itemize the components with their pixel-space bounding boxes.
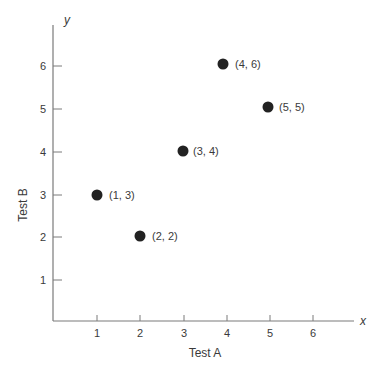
y-axis-variable: y <box>63 13 71 27</box>
x-tick-label: 6 <box>310 327 316 339</box>
y-ticks: 1 2 3 4 5 6 <box>40 60 62 286</box>
y-tick-label: 1 <box>40 274 46 286</box>
y-tick-label: 5 <box>40 103 46 115</box>
y-tick-label: 3 <box>40 189 46 201</box>
data-point <box>218 59 229 70</box>
x-tick-label: 3 <box>181 327 187 339</box>
x-axis-title: Test A <box>189 346 222 360</box>
data-point <box>263 102 274 113</box>
data-point-label: (1, 3) <box>109 189 135 201</box>
data-points: (1, 3) (2, 2) (3, 4) (4, 6) (5, 5) <box>92 58 305 242</box>
x-tick-label: 1 <box>94 327 100 339</box>
data-point <box>135 231 146 242</box>
x-tick-label: 4 <box>224 327 230 339</box>
scatter-chart: y x Test A Test B 1 2 3 4 5 6 1 2 3 4 5 … <box>0 0 387 375</box>
y-tick-label: 6 <box>40 60 46 72</box>
data-point <box>92 190 103 201</box>
data-point-label: (3, 4) <box>193 145 219 157</box>
data-point-label: (4, 6) <box>235 58 261 70</box>
y-tick-label: 2 <box>40 231 46 243</box>
x-tick-label: 5 <box>267 327 273 339</box>
data-point <box>178 146 189 157</box>
y-tick-label: 4 <box>40 146 46 158</box>
x-tick-label: 2 <box>137 327 143 339</box>
y-axis-title: Test B <box>16 188 30 221</box>
data-point-label: (5, 5) <box>279 101 305 113</box>
x-ticks: 1 2 3 4 5 6 <box>94 315 316 339</box>
data-point-label: (2, 2) <box>152 230 178 242</box>
x-axis-variable: x <box>359 314 367 328</box>
